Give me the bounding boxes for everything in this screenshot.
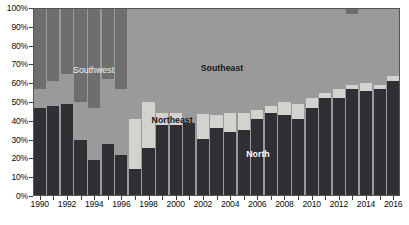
y-axis-tick-label: 70% xyxy=(0,59,28,69)
y-axis-tick-mark xyxy=(29,158,33,159)
y-axis-tick-mark xyxy=(29,121,33,122)
y-axis-tick-label: 90% xyxy=(0,22,28,32)
y-axis-tick-label: 80% xyxy=(0,41,28,51)
y-axis-tick-label: 40% xyxy=(0,116,28,126)
y-axis-tick-label: 100% xyxy=(0,3,28,13)
y-axis: 0%10%20%30%40%50%60%70%80%90%100% xyxy=(0,0,409,225)
y-axis-tick-label: 60% xyxy=(0,78,28,88)
y-axis-tick-mark xyxy=(29,46,33,47)
y-axis-tick-label: 20% xyxy=(0,153,28,163)
y-axis-tick-label: 50% xyxy=(0,97,28,107)
x-axis-tick-label: 2016 xyxy=(373,199,409,209)
y-axis-tick-mark xyxy=(29,177,33,178)
y-axis-tick-mark xyxy=(29,140,33,141)
y-axis-tick-mark xyxy=(29,102,33,103)
chart-root: 0%10%20%30%40%50%60%70%80%90%100% 199019… xyxy=(0,0,409,225)
y-axis-tick-mark xyxy=(29,27,33,28)
y-axis-tick-mark xyxy=(29,8,33,9)
y-axis-tick-mark xyxy=(29,196,33,197)
y-axis-tick-mark xyxy=(29,83,33,84)
y-axis-tick-mark xyxy=(29,64,33,65)
y-axis-tick-label: 10% xyxy=(0,172,28,182)
y-axis-tick-label: 30% xyxy=(0,135,28,145)
